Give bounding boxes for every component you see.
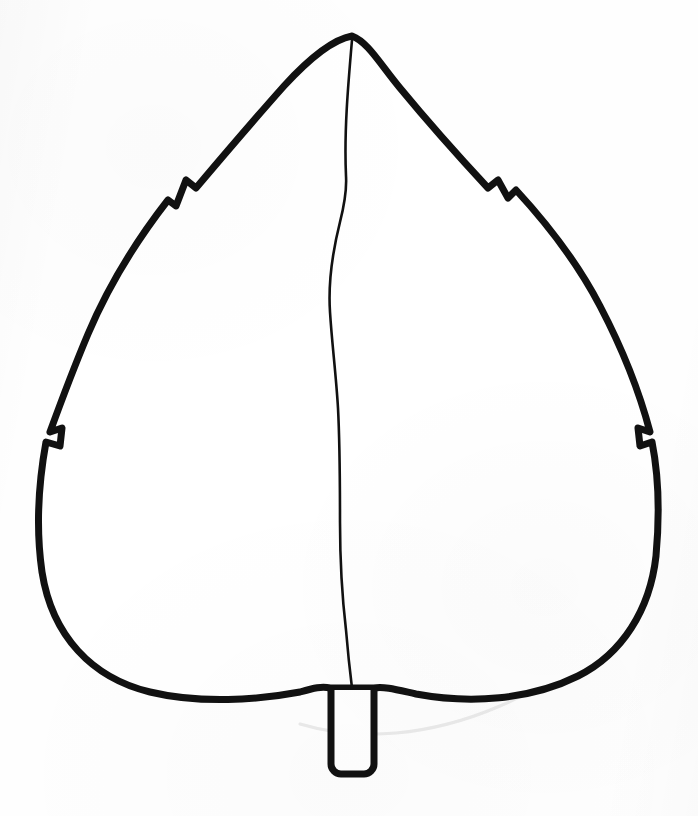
coloring-page-canvas: Leaf Coloring Page bbox=[0, 0, 698, 816]
leaf-stem bbox=[331, 690, 374, 774]
leaf-artwork: Leaf Coloring Page bbox=[0, 0, 698, 816]
